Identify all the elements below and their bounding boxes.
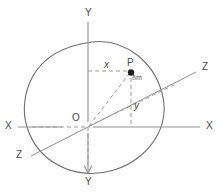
origin-to-p-dashed-line xyxy=(89,74,129,126)
axis-label-y-bottom: Y xyxy=(85,177,92,187)
axis-label-x-left: X xyxy=(5,121,12,131)
y-distance-label: y xyxy=(134,101,139,111)
z-axis-line xyxy=(31,72,196,156)
origin-label: O xyxy=(72,113,80,123)
axis-label-y-top: Y xyxy=(85,8,92,18)
axis-label-z-upper-right: Z xyxy=(202,62,208,72)
mass-element-label: δm xyxy=(132,74,142,81)
figure-container: Y Y X X Z Z O P δm x y xyxy=(0,0,223,195)
point-p-label: P xyxy=(127,58,134,68)
axis-label-z-lower-left: Z xyxy=(16,150,22,160)
x-distance-label: x xyxy=(104,60,109,70)
diagram-svg xyxy=(0,0,223,195)
axis-label-x-right: X xyxy=(206,121,213,131)
lamina-outline xyxy=(24,42,164,174)
